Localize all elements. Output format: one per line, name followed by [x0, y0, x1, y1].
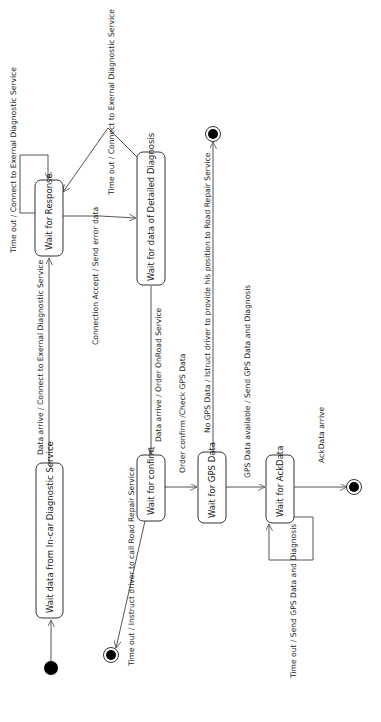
state-label: Wait for Response [44, 173, 54, 250]
state-wait-for-ackdata: Wait for AckData [266, 446, 294, 523]
state-label: Wait for data of Detailed Diagnosis [146, 132, 156, 281]
edge-label-no-gps: No GPS Data / Istruct driver to provide … [203, 152, 212, 433]
state-wait-for-gps-data: Wait for GPS Data [198, 442, 226, 523]
initial-node [44, 661, 58, 675]
state-wait-for-confirm: Wait for confirm [137, 447, 165, 521]
state-wait-for-response: Wait for Response [35, 173, 63, 256]
final-node-no-gps [206, 127, 221, 142]
edge-label-detailed-timeout: Time out / Connect to Exernal Diagnostic… [107, 9, 116, 196]
edge-label-ack-timeout: Time out / Send GPS Data and Diagnosis [289, 524, 298, 679]
transition-detailed-to-response [63, 128, 137, 192]
edge-label-confirm-timeout: Time out / Instruct driver to call Road … [127, 467, 136, 667]
state-label: Wait for AckData [275, 446, 285, 517]
state-wait-detailed-diagnosis: Wait for data of Detailed Diagnosis [137, 132, 165, 285]
edge-label-data-arrive-connect: Data arrive / Connect to Exernal Diagnos… [36, 260, 45, 455]
state-label: Wait for GPS Data [207, 442, 217, 518]
state-wait-data-incar: Wait data from In-car Diagnostic Service [36, 441, 63, 618]
edge-label-data-arrive-order: Data arrive / Order OnRoad Service [154, 307, 163, 442]
edge-label-order-confirm: Order confirm /Check GPS Data [178, 354, 187, 473]
final-node-confirm-timeout [104, 648, 119, 663]
state-diagram: Wait data from In-car Diagnostic Service… [0, 0, 381, 722]
state-label: Wait for confirm [146, 447, 156, 515]
final-node-ack [347, 480, 362, 495]
edge-label-response-timeout: Time out / Connect to Exernal Diagnostic… [9, 67, 18, 254]
edge-label-gps-available: GPS Data available / Send GPS Data and D… [243, 285, 252, 478]
state-label: Wait data from In-car Diagnostic Service [45, 441, 55, 613]
edge-label-ack-arrive: AckData arrive [317, 406, 326, 463]
edge-label-connection-accept: Connection Accept / Send error data [91, 207, 100, 345]
